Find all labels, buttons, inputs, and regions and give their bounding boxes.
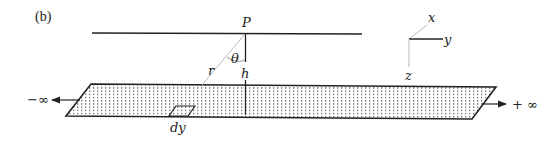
height-label: h	[241, 66, 249, 81]
minus-infinity-label: −∞	[27, 92, 49, 107]
x-axis-label: x	[428, 10, 436, 25]
coordinate-axes: x y z	[404, 10, 452, 83]
dy-label: dy	[170, 120, 186, 135]
point-p-label: P	[241, 15, 251, 30]
reference-line	[92, 33, 362, 34]
z-axis-label: z	[404, 68, 412, 83]
distance-label: r	[208, 63, 215, 78]
angle-label: θ	[231, 51, 239, 66]
y-axis-label: y	[443, 32, 452, 47]
diagram: (b) dy −∞ + ∞ P h r θ x y z	[0, 0, 558, 142]
panel-label: (b)	[35, 9, 52, 25]
charged-sheet	[66, 84, 496, 119]
plus-infinity-label: + ∞	[512, 97, 538, 112]
x-axis	[409, 25, 427, 39]
